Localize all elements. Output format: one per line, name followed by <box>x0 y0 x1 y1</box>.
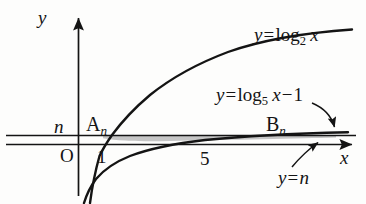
point-label-an: An <box>86 114 107 137</box>
origin-label: O <box>60 146 74 165</box>
curve-label-log5: y=log5x−1 <box>216 85 303 107</box>
math-figure: y x O 1 5 n An Bn y=log2x y=log5x−1 y=n <box>0 0 366 204</box>
x-tick-label-1: 1 <box>97 147 107 166</box>
curve-label-log2: y=log2x <box>254 25 319 47</box>
point-an-base: A <box>86 113 100 135</box>
log2-arg: x <box>306 24 319 45</box>
log5-const: 1 <box>294 84 304 105</box>
log5-minus: − <box>281 84 294 105</box>
log5-equals: = <box>224 84 237 105</box>
x-axis-label: x <box>340 148 348 167</box>
log2-base: 2 <box>300 34 306 48</box>
y-tick-label-n: n <box>54 117 64 136</box>
curve-label-y-equals-n: y=n <box>278 168 309 187</box>
point-an-sub: n <box>100 123 107 138</box>
log5-arg: x <box>268 84 281 105</box>
point-bn-base: B <box>266 113 279 135</box>
annotation-arrow-yn <box>292 143 318 168</box>
log5-fn: log <box>237 84 261 105</box>
log5-base: 5 <box>262 94 268 108</box>
yn-equals: = <box>286 167 299 188</box>
curve-log2 <box>90 30 352 204</box>
point-bn-sub: n <box>279 123 286 138</box>
annotation-arrow-log5 <box>312 103 335 127</box>
yn-rhs: n <box>299 167 309 188</box>
log2-fn: log <box>275 24 299 45</box>
x-tick-label-5: 5 <box>200 149 210 168</box>
y-axis-label: y <box>38 8 46 27</box>
point-label-bn: Bn <box>266 114 286 137</box>
log2-equals: = <box>262 24 275 45</box>
